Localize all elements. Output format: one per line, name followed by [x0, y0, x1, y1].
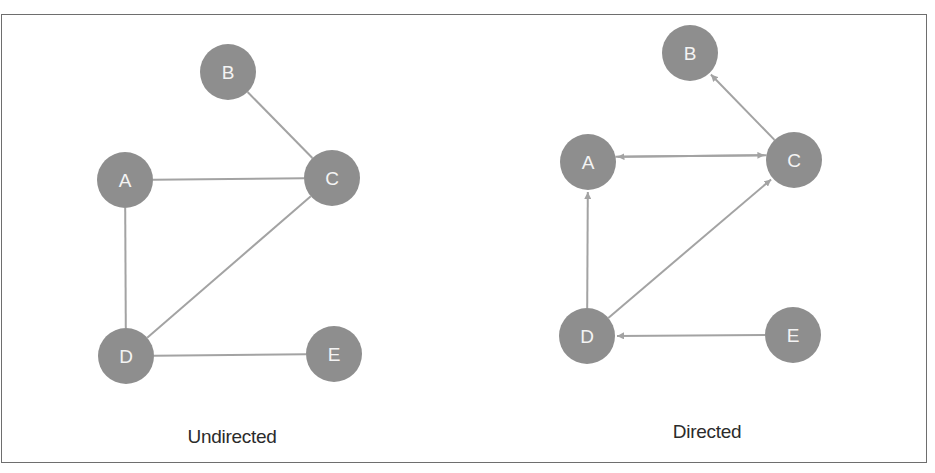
undirected-edge-d-e	[154, 354, 306, 355]
undirected-edge-d-c	[147, 196, 311, 337]
node-label: E	[787, 325, 800, 346]
directed-edge-c-a	[618, 155, 767, 156]
directed-node-a: A	[560, 134, 616, 190]
undirected-node-a: A	[97, 152, 153, 208]
node-label: C	[787, 150, 801, 171]
undirected-caption: Undirected	[188, 426, 277, 447]
node-label: A	[119, 170, 132, 191]
directed-node-d: D	[559, 308, 615, 364]
undirected-nodes: ABCDE	[97, 44, 362, 384]
undirected-edge-a-c	[153, 178, 304, 179]
undirected-node-e: E	[306, 326, 362, 382]
directed-edge-e-d	[617, 335, 765, 336]
undirected-node-c: C	[304, 150, 360, 206]
undirected-edges	[125, 92, 312, 356]
directed-edge-d-c	[608, 179, 771, 318]
directed-graph-panel: ABCDE Directed	[559, 25, 822, 442]
graph-diagram: ABCDE Undirected ABCDE Directed	[0, 0, 935, 473]
directed-nodes: ABCDE	[559, 25, 822, 364]
directed-edges	[587, 75, 774, 336]
directed-caption: Directed	[673, 421, 741, 442]
undirected-node-b: B	[200, 44, 256, 100]
node-label: A	[582, 152, 595, 173]
directed-node-b: B	[662, 25, 718, 81]
directed-node-e: E	[765, 307, 821, 363]
directed-edge-d-a	[587, 192, 588, 308]
directed-edge-c-b	[711, 75, 775, 140]
node-label: C	[325, 168, 339, 189]
node-label: D	[580, 326, 594, 347]
undirected-node-d: D	[98, 328, 154, 384]
node-label: B	[222, 62, 235, 83]
node-label: B	[684, 43, 697, 64]
undirected-edge-b-c	[248, 92, 313, 158]
undirected-edge-a-d	[125, 208, 126, 328]
node-label: D	[119, 346, 133, 367]
node-label: E	[328, 344, 341, 365]
directed-node-c: C	[766, 132, 822, 188]
undirected-graph-panel: ABCDE Undirected	[97, 44, 362, 447]
